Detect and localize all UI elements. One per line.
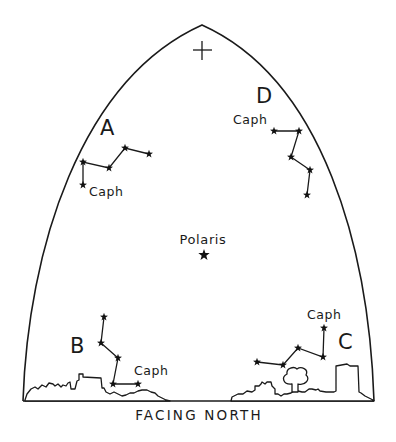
caph-label-a: Caph — [89, 184, 124, 199]
label-b: B — [70, 334, 84, 358]
star-icon — [109, 380, 117, 388]
constellation-d — [274, 131, 310, 195]
star-icon — [253, 358, 261, 366]
star-icon — [270, 127, 278, 135]
constellation-c — [257, 328, 324, 365]
zenith-cross-icon — [193, 41, 212, 60]
star-icon — [121, 144, 129, 152]
caph-label-d: Caph — [233, 112, 268, 127]
tree-icon — [284, 368, 308, 392]
star-icon — [134, 380, 142, 388]
left-skyline-silhouette — [25, 374, 170, 401]
label-d: D — [256, 84, 272, 108]
label-c: C — [338, 330, 353, 354]
caph-label-b: Caph — [134, 363, 169, 378]
north-sky-diagram: Polaris A D B C Caph Caph Caph Caph FACI… — [0, 0, 396, 442]
star-icon — [295, 127, 303, 135]
star-icon — [319, 353, 327, 361]
caph-label-c: Caph — [307, 307, 342, 322]
star-icon — [303, 191, 311, 199]
polaris-label: Polaris — [180, 232, 227, 247]
polaris-star-icon — [198, 249, 209, 260]
constellation-a — [83, 148, 149, 185]
star-icon — [79, 181, 87, 189]
constellation-b — [101, 317, 138, 384]
label-a: A — [100, 116, 115, 140]
facing-north-caption: FACING NORTH — [135, 407, 263, 423]
